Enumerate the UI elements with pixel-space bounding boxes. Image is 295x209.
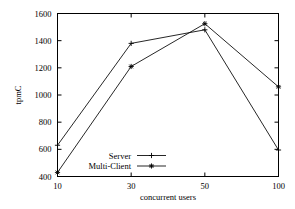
x-tick-label: 30 xyxy=(127,181,136,191)
tpmc-line-chart: 4006008001000120014001600 103050100 tpmC… xyxy=(0,0,295,209)
series-line-server xyxy=(58,30,279,150)
y-tick-label: 1200 xyxy=(35,63,52,73)
plot-frame xyxy=(58,14,279,177)
x-tick-label: 10 xyxy=(53,181,62,191)
series-line-multi-client xyxy=(58,24,279,173)
legend-label-server: Server xyxy=(109,151,131,161)
chart-legend: ServerMulti-Client xyxy=(89,151,167,172)
x-tick-label: 50 xyxy=(201,181,210,191)
y-tick-label: 1600 xyxy=(35,9,52,19)
y-tick-label: 400 xyxy=(39,172,52,182)
y-tick-label: 600 xyxy=(39,144,52,154)
data-series-layer xyxy=(55,21,281,175)
y-tick-label: 800 xyxy=(39,117,52,127)
legend-label-multi-client: Multi-Client xyxy=(89,161,132,171)
y-tick-label: 1400 xyxy=(35,36,52,46)
x-tick-label: 100 xyxy=(272,181,285,191)
y-tick-label: 1000 xyxy=(35,90,52,100)
x-axis-title: concurrent users xyxy=(140,192,196,202)
y-axis-title: tpmC xyxy=(13,85,23,104)
chart-container: 4006008001000120014001600 103050100 tpmC… xyxy=(0,0,295,209)
